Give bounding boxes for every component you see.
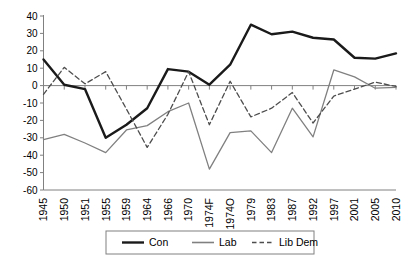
x-tick-label: 1970 — [182, 198, 194, 222]
line-chart: 403020100-10-20-30-40-50-60 194519501951… — [0, 0, 414, 265]
x-tick-label: 1997 — [328, 198, 340, 222]
y-tick-label: -10 — [23, 98, 38, 109]
x-tick-label: 1959 — [120, 198, 132, 222]
y-tick-label: -20 — [23, 115, 38, 126]
y-tick-label: 20 — [26, 45, 38, 56]
x-tick-label: 1987 — [286, 198, 298, 222]
y-tick-label: 10 — [26, 63, 38, 74]
chart-container: 403020100-10-20-30-40-50-60 194519501951… — [0, 0, 414, 265]
x-tick-label: 1950 — [58, 198, 70, 222]
y-tick-label: 40 — [26, 11, 38, 22]
y-tick-label: -60 — [23, 185, 38, 196]
legend-label-lab: Lab — [219, 236, 237, 248]
y-tick-label: -30 — [23, 132, 38, 143]
x-tick-label: 2010 — [390, 198, 402, 222]
x-tick-label: 1992 — [307, 198, 319, 222]
x-tick-label: 1964 — [141, 198, 153, 222]
x-tick-label: 1974F — [203, 198, 215, 228]
x-tick-label: 1945 — [37, 198, 49, 222]
y-tick-label: -50 — [23, 167, 38, 178]
y-tick-label: -40 — [23, 150, 38, 161]
x-tick-label: 1979 — [245, 198, 257, 222]
x-tick-label: 2005 — [369, 198, 381, 222]
legend-label-con: Con — [149, 236, 168, 248]
x-tick-label: 2001 — [348, 198, 360, 222]
x-tick-label: 1983 — [265, 198, 277, 222]
y-tick-label: 0 — [32, 80, 38, 91]
chart-legend: ConLabLib Dem — [106, 231, 318, 254]
x-tick-label: 1951 — [79, 198, 91, 222]
legend-label-lib-dem: Lib Dem — [279, 236, 318, 248]
x-tick-label: 1974O — [224, 198, 236, 230]
x-tick-label: 1955 — [100, 198, 112, 222]
y-tick-label: 30 — [26, 28, 38, 39]
x-tick-label: 1966 — [162, 198, 174, 222]
